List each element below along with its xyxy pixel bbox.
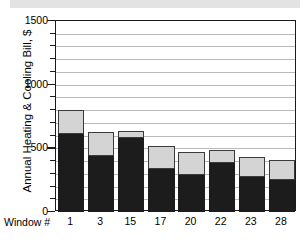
- y-axis-major-tick: [47, 211, 55, 212]
- bar-23: [239, 21, 265, 212]
- chart-figure: Annual Heating & Cooling Bill, $ 1500100…: [0, 0, 307, 251]
- x-axis-tick-label: 20: [176, 216, 206, 227]
- y-axis-tick-label: 0: [0, 206, 48, 217]
- y-axis-tick-label: 500: [0, 142, 48, 153]
- x-axis-tick-label: 28: [266, 216, 296, 227]
- y-axis-major-tick: [47, 147, 55, 148]
- x-axis-tick-label: 17: [145, 216, 175, 227]
- plot-area: [55, 20, 296, 211]
- bar-segment-heating: [178, 175, 204, 212]
- bar-segment-cooling: [178, 152, 204, 176]
- bar-segment-heating: [269, 180, 295, 212]
- x-axis-tick-label: 22: [206, 216, 236, 227]
- bar-segment-cooling: [209, 150, 235, 163]
- bar-segment-heating: [118, 138, 144, 212]
- y-axis-major-tick: [47, 84, 55, 85]
- bar-segment-cooling: [118, 131, 144, 138]
- x-axis-tick-label: 3: [85, 216, 115, 227]
- bar-segment-heating: [88, 156, 114, 212]
- x-axis-tick-label: 23: [236, 216, 266, 227]
- bar-segment-heating: [209, 163, 235, 212]
- y-axis-major-tick: [47, 20, 55, 21]
- x-axis-caption: Window #: [4, 216, 50, 228]
- bar-22: [209, 21, 235, 212]
- scan-artifact-band: [10, 0, 300, 8]
- bar-segment-cooling: [88, 132, 114, 156]
- bar-segment-heating: [148, 169, 174, 212]
- bar-15: [118, 21, 144, 212]
- y-axis-tick-label: 1500: [0, 15, 48, 26]
- bar-segment-cooling: [148, 146, 174, 169]
- x-axis-tick-label: 1: [55, 216, 85, 227]
- bar-segment-cooling: [269, 160, 295, 180]
- bar-segment-cooling: [58, 110, 84, 134]
- bar-segment-cooling: [239, 157, 265, 177]
- bar-20: [178, 21, 204, 212]
- bar-segment-heating: [239, 177, 265, 212]
- bar-segment-heating: [58, 134, 84, 212]
- bar-3: [88, 21, 114, 212]
- bar-1: [58, 21, 84, 212]
- y-axis-tick-label: 1000: [0, 79, 48, 90]
- bar-28: [269, 21, 295, 212]
- x-axis-tick-label: 15: [115, 216, 145, 227]
- bar-17: [148, 21, 174, 212]
- y-axis-title: Annual Heating & Cooling Bill, $: [21, 11, 33, 211]
